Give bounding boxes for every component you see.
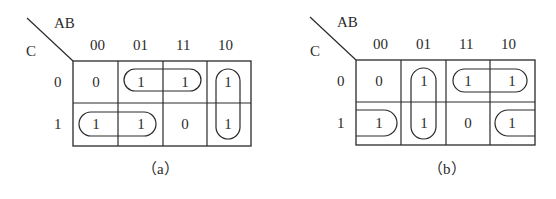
cell: 0	[175, 117, 195, 132]
row-label: 1	[54, 117, 62, 132]
cell: 1	[502, 74, 522, 89]
col-label: 10	[501, 37, 516, 52]
cell: 1	[369, 116, 389, 131]
col-label: 10	[218, 38, 233, 53]
cell: 1	[414, 74, 434, 89]
col-label: 00	[373, 37, 388, 52]
row-var-label: C	[26, 44, 36, 59]
row-label: 0	[337, 74, 345, 89]
cell: 0	[369, 74, 389, 89]
cell: 1	[218, 75, 238, 90]
cell: 1	[131, 117, 151, 132]
row-label: 0	[54, 75, 62, 90]
cell: 1	[131, 75, 151, 90]
cell: 1	[414, 116, 434, 131]
cell: 0	[86, 75, 106, 90]
kmap-b-grid	[278, 0, 556, 199]
col-label: 11	[459, 37, 473, 52]
kmap-b: AB C 00 01 11 10 0 1 0 1 1 1 1 1 0 1 （b）	[278, 0, 556, 199]
cell: 0	[458, 116, 478, 131]
col-label: 11	[176, 38, 190, 53]
kmap-a: AB C 00 01 11 10 0 1 0 1 1 1 1 1 0 1 （a）	[0, 0, 278, 199]
caption: （b）	[428, 162, 466, 177]
col-var-label: AB	[54, 16, 75, 31]
cell: 1	[218, 117, 238, 132]
row-label: 1	[337, 116, 345, 131]
col-label: 00	[90, 38, 105, 53]
caption: （a）	[142, 162, 179, 177]
cell: 1	[458, 74, 478, 89]
col-var-label: AB	[337, 15, 358, 30]
col-label: 01	[133, 38, 148, 53]
cell: 1	[86, 117, 106, 132]
kmap-a-grid	[0, 0, 278, 199]
cell: 1	[502, 116, 522, 131]
col-label: 01	[416, 37, 431, 52]
cell: 1	[175, 75, 195, 90]
row-var-label: C	[310, 44, 320, 59]
